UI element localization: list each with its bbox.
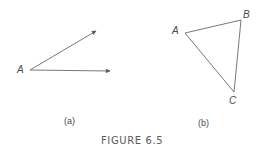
panel-b-caption: (b) — [198, 119, 209, 128]
figure-canvas — [0, 0, 262, 150]
triangle-abc — [185, 20, 241, 92]
panel-a-vertex-label: A — [17, 65, 24, 75]
panel-b-vertex-a-label: A — [172, 26, 179, 36]
panel-a-angle — [30, 31, 110, 71]
figure-title: FIGURE 6.5 — [101, 136, 163, 146]
panel-a-caption: (a) — [64, 117, 75, 126]
panel-b-vertex-c-label: C — [229, 96, 236, 106]
ray-upper — [30, 31, 96, 70]
panel-b-triangle — [185, 20, 241, 92]
panel-b-vertex-b-label: B — [243, 10, 250, 20]
ray-lower — [30, 70, 110, 71]
